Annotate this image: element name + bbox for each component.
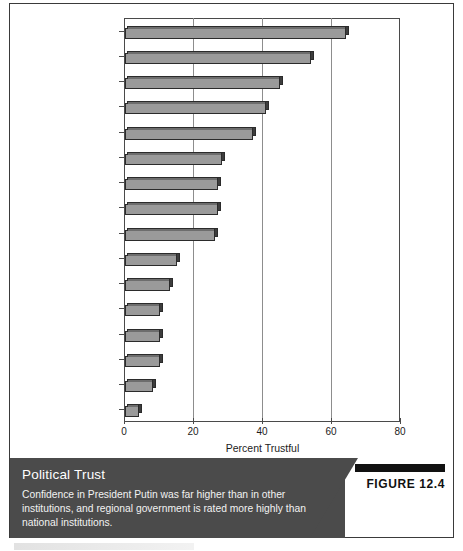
bar-side-face <box>310 51 314 60</box>
bar-top-face <box>127 127 253 130</box>
bar-side-face <box>169 278 173 287</box>
bar <box>125 28 346 39</box>
bar-top-face <box>127 278 170 281</box>
bar <box>125 406 139 417</box>
bar-top-face <box>127 303 160 306</box>
bar-chart: 020406080 Percent Trustful PutinRegional… <box>9 3 454 448</box>
caption-title: Political Trust <box>22 467 105 482</box>
x-tick <box>193 418 194 424</box>
x-tick-label: 60 <box>325 426 336 437</box>
bar-side-face <box>279 76 283 85</box>
x-tick-label: 20 <box>187 426 198 437</box>
bar <box>125 331 160 342</box>
bar-side-face <box>176 253 180 262</box>
bar <box>125 356 160 367</box>
bar <box>125 381 153 392</box>
bar-top-face <box>127 228 215 231</box>
y-tick <box>119 31 124 32</box>
y-tick <box>119 384 124 385</box>
bar <box>125 53 311 64</box>
figure-tag: FIGURE 12.4 <box>355 477 445 491</box>
bar-top-face <box>127 76 280 79</box>
bar-top-face <box>127 51 311 54</box>
bar-side-face <box>159 303 163 312</box>
x-tick <box>400 418 401 424</box>
y-tick <box>119 308 124 309</box>
x-tick <box>331 418 332 424</box>
figure-caption-band: Political Trust Confidence in President … <box>10 458 454 538</box>
bar-side-face <box>252 127 256 136</box>
y-tick <box>119 132 124 133</box>
bar-side-face <box>138 404 142 413</box>
y-tick <box>119 56 124 57</box>
bar-top-face <box>127 26 346 29</box>
figure-tag-rule <box>355 464 445 472</box>
y-tick <box>119 283 124 284</box>
y-tick <box>119 334 124 335</box>
bar-top-face <box>127 329 160 332</box>
x-tick-label: 80 <box>394 426 405 437</box>
page-bottom-artifact <box>14 543 194 550</box>
bar-side-face <box>159 354 163 363</box>
bar-top-face <box>127 177 218 180</box>
bar-top-face <box>127 152 222 155</box>
bar-side-face <box>217 202 221 211</box>
bar-side-face <box>159 329 163 338</box>
bar-side-face <box>345 26 349 35</box>
bar-top-face <box>127 202 218 205</box>
bar <box>125 103 266 114</box>
bar <box>125 204 218 215</box>
x-axis-title: Percent Trustful <box>124 442 401 454</box>
y-tick <box>119 106 124 107</box>
bar <box>125 305 160 316</box>
x-tick-label: 0 <box>121 426 127 437</box>
bar-side-face <box>217 177 221 186</box>
bar <box>125 78 280 89</box>
y-tick <box>119 409 124 410</box>
bar <box>125 129 253 140</box>
y-tick <box>119 157 124 158</box>
bar <box>125 255 177 266</box>
bar-top-face <box>127 379 153 382</box>
x-tick <box>124 418 125 424</box>
bar-top-face <box>127 354 160 357</box>
y-tick <box>119 81 124 82</box>
bar-side-face <box>221 152 225 161</box>
bar <box>125 280 170 291</box>
y-tick <box>119 207 124 208</box>
x-tick-label: 40 <box>256 426 267 437</box>
bar-side-face <box>265 101 269 110</box>
gridline <box>331 18 332 422</box>
bar <box>125 230 215 241</box>
bar-top-face <box>127 101 266 104</box>
y-tick <box>119 359 124 360</box>
bar-side-face <box>214 228 218 237</box>
bar-side-face <box>152 379 156 388</box>
bar-top-face <box>127 253 177 256</box>
bar <box>125 179 218 190</box>
y-tick <box>119 182 124 183</box>
bar <box>125 154 222 165</box>
y-tick <box>119 258 124 259</box>
caption-body: Confidence in President Putin was far hi… <box>22 488 322 530</box>
y-tick <box>119 233 124 234</box>
x-tick <box>262 418 263 424</box>
